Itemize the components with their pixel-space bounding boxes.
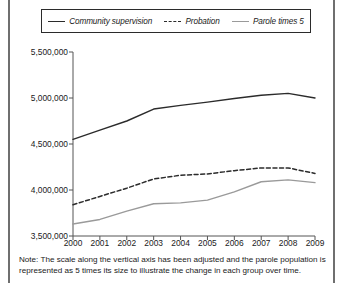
- series-line-community-supervision: [73, 93, 315, 139]
- x-axis-tick-labels: 2000200120022003200420052006200720082009: [0, 238, 342, 252]
- legend-label-parole-times-5: Parole times 5: [253, 17, 304, 26]
- x-axis-tick-label: 2004: [171, 238, 190, 248]
- y-axis-tick-label: 4,500,000: [31, 139, 68, 149]
- x-axis-tick-label: 2005: [198, 238, 217, 248]
- x-axis-tick-label: 2009: [306, 238, 325, 248]
- legend-label-community-supervision: Community supervision: [69, 17, 152, 26]
- chart-note: Note: The scale along the vertical axis …: [19, 255, 327, 276]
- x-axis-tick-label: 2001: [91, 238, 110, 248]
- x-axis-tick-label: 2002: [117, 238, 136, 248]
- y-axis-tick-label: 5,500,000: [31, 47, 68, 57]
- legend-item-community-supervision: Community supervision: [48, 17, 152, 26]
- y-axis-tick-labels: 3,500,0004,000,0004,500,0005,000,0005,50…: [12, 40, 68, 252]
- figure-container: Community supervision Probation Parole t…: [0, 0, 342, 283]
- line-light-icon: [232, 21, 249, 22]
- x-axis-tick-label: 2007: [252, 238, 271, 248]
- x-axis-tick-label: 2008: [279, 238, 298, 248]
- series-line-probation: [73, 168, 315, 205]
- legend-item-parole-times-5: Parole times 5: [232, 17, 304, 26]
- y-axis-tick-label: 5,000,000: [31, 93, 68, 103]
- x-axis-tick-label: 2003: [144, 238, 163, 248]
- series-line-parole-times-5: [73, 180, 315, 224]
- plot-area: 3,500,0004,000,0004,500,0005,000,0005,50…: [0, 40, 342, 252]
- y-axis-tick-label: 4,000,000: [31, 185, 68, 195]
- legend-label-probation: Probation: [185, 17, 219, 26]
- x-axis-tick-label: 2000: [64, 238, 83, 248]
- line-dashed-icon: [164, 21, 181, 22]
- legend-item-probation: Probation: [164, 17, 219, 26]
- chart-legend: Community supervision Probation Parole t…: [41, 9, 311, 33]
- line-solid-icon: [48, 21, 65, 22]
- x-axis-tick-label: 2006: [225, 238, 244, 248]
